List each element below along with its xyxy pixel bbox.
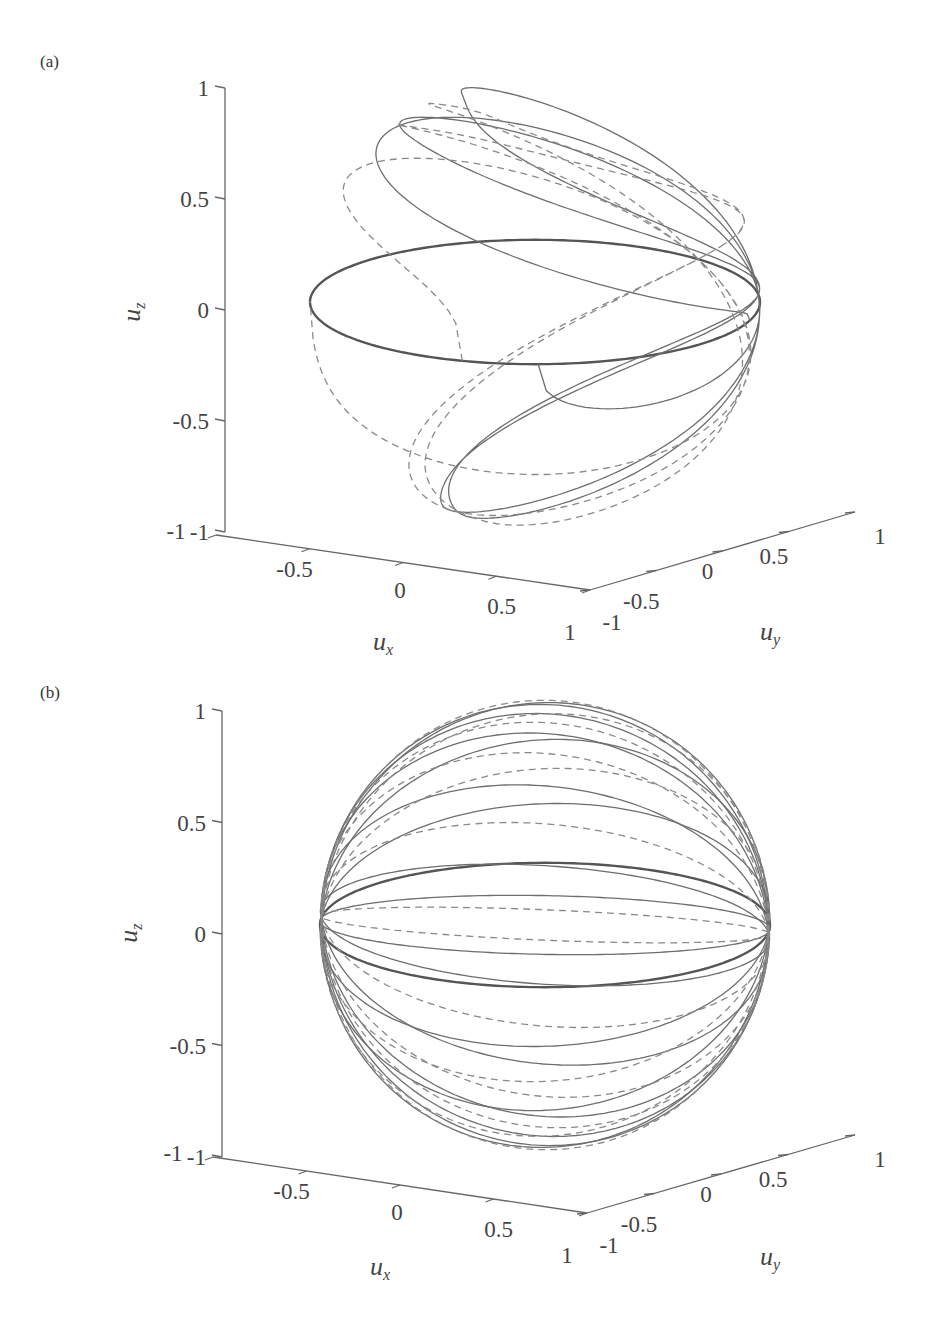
- z-tick-label: -1: [190, 520, 209, 545]
- dashed-orbit: [322, 722, 769, 1127]
- x-tick-label: 1: [561, 1243, 573, 1268]
- x-tick-label: -1: [166, 519, 185, 544]
- y-tick-label: 1: [874, 524, 886, 549]
- trajectories: [320, 700, 770, 1149]
- x-tick-label: -0.5: [276, 557, 312, 582]
- y-tick-label: 0.5: [759, 544, 788, 569]
- solid-orbit: [321, 785, 769, 1065]
- z-tick-label: 0.5: [177, 811, 206, 836]
- solid-orbit: [322, 714, 769, 1137]
- x-axis-label: ux: [370, 1252, 390, 1283]
- solid-orbit: [320, 804, 770, 1047]
- solid-orbit: [322, 704, 769, 1145]
- x-axis-label: ux: [373, 627, 393, 658]
- y-tick-label: -0.5: [621, 1212, 657, 1237]
- x-tick-label: 0: [394, 578, 406, 603]
- z-tick-label: 0.5: [180, 187, 209, 212]
- y-tick-label: 0: [702, 559, 714, 584]
- solid-orbit: [321, 739, 770, 1110]
- y-tick-label: 0.5: [759, 1167, 788, 1192]
- x-tick-label: 0.5: [484, 1217, 513, 1242]
- y-tick-label: -1: [599, 1233, 618, 1258]
- axes: 10.50-0.5-1-1-0.500.51-1-0.500.51uxuyuz: [114, 699, 886, 1283]
- dashed-orbit: [320, 768, 769, 1081]
- z-tick-label: -0.5: [170, 1034, 206, 1059]
- y-tick-label: 1: [874, 1147, 886, 1172]
- y-axis-label: uy: [760, 617, 781, 649]
- z-tick-label: 0: [195, 922, 207, 947]
- panel-b: (b) 10.50-0.5-1-1-0.500.51-1-0.500.51uxu…: [0, 660, 928, 1321]
- z-axis-label: uz: [117, 302, 148, 322]
- dashed-orbit: [321, 714, 769, 1137]
- x-tick-label: 1: [564, 620, 576, 645]
- z-axis-label: uz: [114, 923, 145, 943]
- y-tick-label: 0: [700, 1182, 712, 1207]
- y-axis-label: uy: [760, 1242, 781, 1274]
- x-tick-label: 0.5: [487, 594, 516, 619]
- plot-3d-b: 10.50-0.5-1-1-0.500.51-1-0.500.51uxuyuz: [0, 660, 928, 1321]
- z-tick-label: 1: [195, 699, 207, 724]
- x-tick-label: 0: [391, 1200, 403, 1225]
- solid-orbit: [320, 864, 769, 986]
- y-tick-label: -0.5: [623, 589, 659, 614]
- trajectories: [310, 88, 760, 526]
- z-tick-label: 1: [198, 76, 210, 101]
- dashed-orbit: [320, 907, 770, 943]
- z-tick-label: 0: [198, 298, 210, 323]
- solid-trajectory: [376, 88, 760, 519]
- x-tick-label: -0.5: [273, 1179, 309, 1204]
- z-tick-label: -1: [187, 1145, 206, 1170]
- dashed-trajectory: [310, 103, 751, 525]
- equatorial-band: [320, 863, 770, 987]
- z-tick-label: -0.5: [173, 409, 209, 434]
- equatorial-band: [310, 240, 760, 364]
- panel-a: (a) 10.50-0.5-1-1-0.500.51-1-0.500.51uxu…: [0, 0, 928, 660]
- y-tick-label: -1: [602, 610, 621, 635]
- plot-3d-a: 10.50-0.5-1-1-0.500.51-1-0.500.51uxuyuz: [0, 0, 928, 660]
- dashed-orbit: [321, 753, 768, 1098]
- x-tick-label: -1: [163, 1141, 182, 1166]
- solid-orbit: [320, 895, 770, 954]
- dashed-orbit: [321, 823, 769, 1028]
